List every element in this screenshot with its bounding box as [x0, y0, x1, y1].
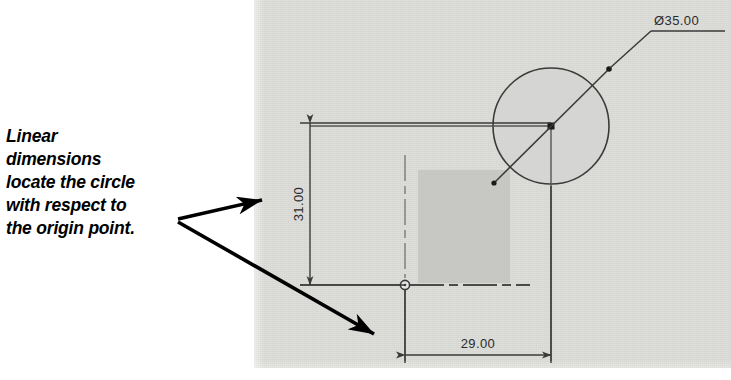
callout-arrow-layer	[0, 0, 731, 380]
technical-drawing-figure: Linear dimensions locate the circle with…	[0, 0, 731, 380]
callout-arrow-lower	[178, 222, 374, 334]
callout-arrow-upper	[178, 200, 262, 219]
